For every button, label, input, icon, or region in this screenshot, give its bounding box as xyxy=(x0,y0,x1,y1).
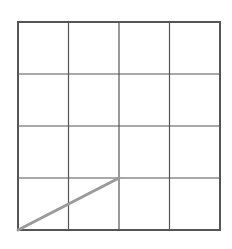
grid-diagram xyxy=(0,0,232,249)
grid-lines xyxy=(18,22,220,230)
